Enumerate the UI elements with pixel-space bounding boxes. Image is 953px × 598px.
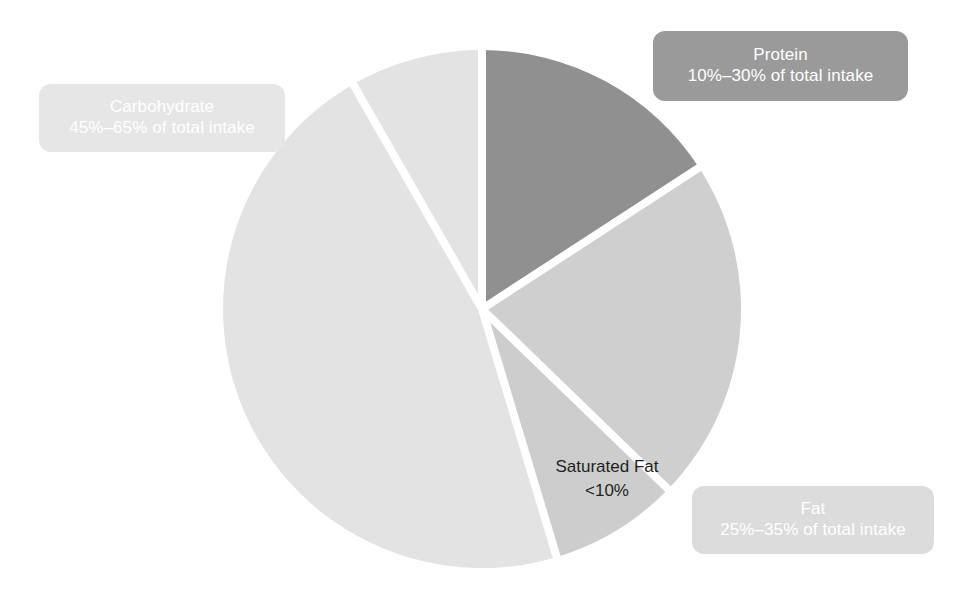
- callout-fat-title: Fat: [801, 498, 826, 519]
- callout-fat[interactable]: Fat 25%–35% of total intake: [692, 486, 934, 554]
- callout-protein[interactable]: Protein 10%–30% of total intake: [653, 31, 908, 101]
- label-saturated-fat-range: <10%: [523, 479, 691, 503]
- callout-protein-range: 10%–30% of total intake: [688, 65, 874, 86]
- pie-chart: Protein 10%–30% of total intake Carbohyd…: [0, 0, 953, 598]
- callout-carbohydrate-range: 45%–65% of total intake: [69, 117, 255, 138]
- label-saturated-fat: Saturated Fat <10%: [523, 455, 691, 503]
- callout-fat-range: 25%–35% of total intake: [720, 519, 906, 540]
- callout-protein-title: Protein: [753, 44, 808, 65]
- callout-carbohydrate[interactable]: Carbohydrate 45%–65% of total intake: [39, 84, 285, 152]
- callout-carbohydrate-title: Carbohydrate: [110, 96, 214, 117]
- label-saturated-fat-title: Saturated Fat: [523, 455, 691, 479]
